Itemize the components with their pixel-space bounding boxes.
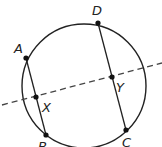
point-c — [123, 127, 128, 132]
point-b — [43, 132, 48, 137]
label-b: B — [38, 139, 47, 147]
point-a — [23, 55, 28, 60]
geometry-diagram: A B C D X Y — [0, 0, 162, 147]
label-y: Y — [116, 80, 125, 95]
label-d: D — [92, 3, 102, 18]
point-d — [95, 20, 100, 25]
label-a: A — [13, 41, 23, 56]
dashed-line-xy — [2, 63, 162, 105]
point-y — [109, 74, 114, 79]
label-x: X — [41, 100, 52, 115]
label-c: C — [122, 135, 132, 147]
point-x — [33, 94, 38, 99]
